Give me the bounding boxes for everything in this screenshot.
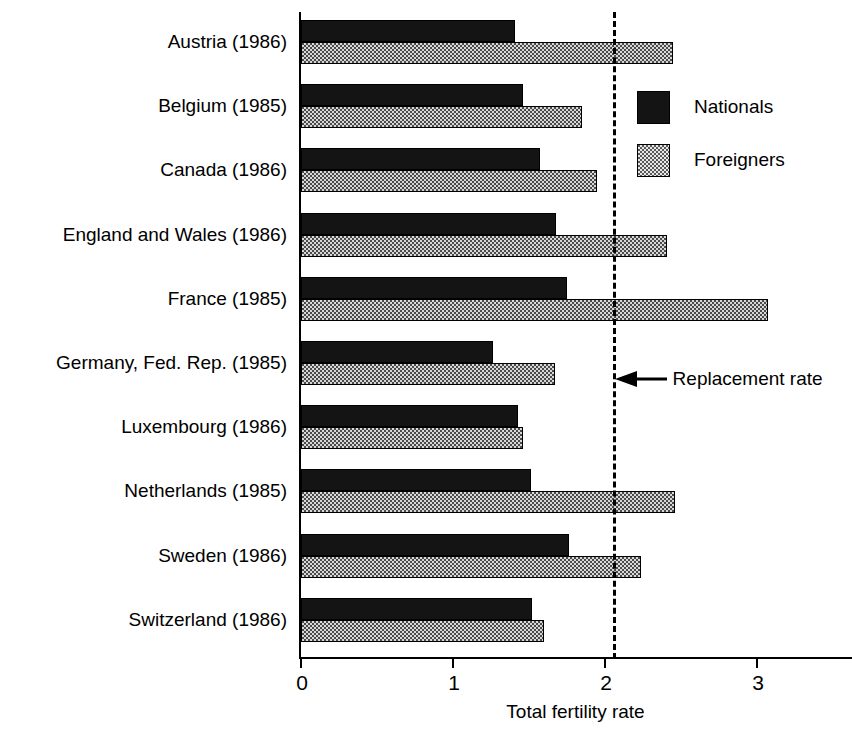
bar-nationals	[301, 469, 531, 491]
x-tick-label: 0	[282, 670, 322, 695]
category-label: Canada (1986)	[0, 159, 287, 181]
chart-page: Austria (1986)Belgium (1985)Canada (1986…	[0, 0, 852, 737]
x-tick	[300, 659, 302, 668]
x-tick	[604, 659, 606, 668]
bar-foreigners	[301, 363, 555, 385]
bar-nationals	[301, 148, 540, 170]
bar-nationals	[301, 341, 493, 363]
bar-foreigners	[301, 491, 675, 513]
bar-nationals	[301, 598, 532, 620]
bar-nationals	[301, 84, 523, 106]
bar-nationals	[301, 213, 556, 235]
x-axis-title: Total fertility rate	[299, 700, 852, 723]
x-tick-label: 1	[434, 670, 474, 695]
x-tick	[756, 659, 758, 668]
bar-foreigners	[301, 106, 582, 128]
category-label: England and Wales (1986)	[0, 224, 287, 246]
legend-item-nationals: Nationals	[637, 88, 785, 126]
bar-foreigners	[301, 556, 641, 578]
category-label: France (1985)	[0, 288, 287, 310]
x-axis-line	[299, 657, 852, 659]
category-label: Switzerland (1986)	[0, 609, 287, 631]
legend: Nationals Foreigners	[637, 88, 785, 194]
category-label: Germany, Fed. Rep. (1985)	[0, 352, 287, 374]
bar-foreigners	[301, 42, 673, 64]
bar-foreigners	[301, 620, 544, 642]
replacement-rate-label: Replacement rate	[673, 368, 823, 390]
bar-nationals	[301, 277, 567, 299]
plot-area: Austria (1986)Belgium (1985)Canada (1986…	[0, 0, 852, 737]
bar-foreigners	[301, 170, 597, 192]
x-tick	[452, 659, 454, 668]
x-tick-label: 3	[738, 670, 778, 695]
replacement-rate-line	[613, 12, 616, 659]
category-label: Luxembourg (1986)	[0, 416, 287, 438]
legend-item-foreigners: Foreigners	[637, 141, 785, 179]
legend-label-foreigners: Foreigners	[694, 149, 785, 171]
bar-nationals	[301, 534, 569, 556]
category-label: Netherlands (1985)	[0, 480, 287, 502]
category-label: Austria (1986)	[0, 31, 287, 53]
x-tick-label: 2	[586, 670, 626, 695]
bar-nationals	[301, 405, 518, 427]
legend-label-nationals: Nationals	[694, 96, 773, 118]
category-label: Sweden (1986)	[0, 545, 287, 567]
replacement-rate-arrow-icon	[615, 369, 667, 393]
legend-swatch-foreigners-icon	[637, 144, 670, 177]
category-label: Belgium (1985)	[0, 95, 287, 117]
legend-swatch-nationals-icon	[637, 91, 670, 124]
bar-foreigners	[301, 427, 523, 449]
bar-nationals	[301, 20, 515, 42]
bar-foreigners	[301, 299, 768, 321]
